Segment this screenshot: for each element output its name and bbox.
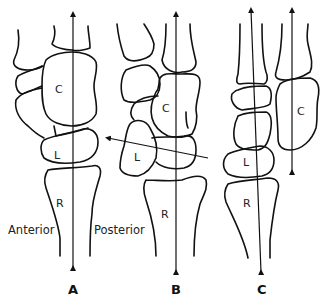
panel-b-radius [144,176,207,256]
panel-c-capitate-label: C [297,106,305,117]
panel-b-capitate-label: C [162,103,170,114]
panel-a-metacarpal-posterior [52,26,90,51]
wrist-alignment-figure: C L R C L R C L R Anterior Posterior A B… [0,0,328,307]
panel-c-radius-label: R [243,198,251,209]
panel-c-label: C [257,284,267,295]
panel-a-capitate [42,52,97,126]
figure-drawing [0,0,328,307]
panel-a-lunate-label: L [54,150,60,161]
panel-c-radius [225,178,279,258]
panel-a-metacarpal-anterior [14,30,43,70]
panel-c-drawing [224,10,319,272]
panel-b-lunate [120,121,157,176]
panel-b-hamate [131,96,158,120]
panel-b-capitate-hook [186,112,188,128]
panel-b-radius-label: R [161,209,169,220]
panel-b-metacarpal-posterior [162,24,196,73]
panel-a-scaphoid-lower [16,88,44,138]
panel-b-scaphoid [152,136,196,169]
posterior-label: Posterior [94,225,145,236]
panel-b-metacarpal-anterior [117,24,154,61]
panel-a-radius-label: R [56,198,64,209]
panel-c-hamate [234,112,271,150]
panel-a-capitate-label: C [55,84,63,95]
panel-c-radius-lunate-axis [251,10,261,272]
panel-a-lunate [41,129,98,163]
panel-c-trapezoid [231,86,271,110]
panel-a-label: A [68,284,78,295]
panel-c-lunate-label: L [243,157,249,168]
anterior-label: Anterior [8,225,54,236]
panel-b-lunate-label: L [134,152,140,163]
panel-b-label: B [171,284,181,295]
panel-c-metacarpal-right [275,24,311,80]
